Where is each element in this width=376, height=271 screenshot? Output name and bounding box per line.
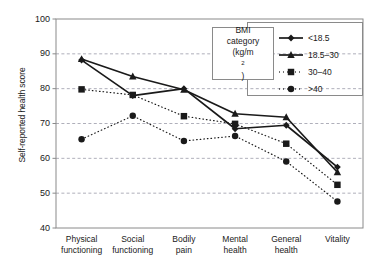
legend-label-0: <18.5 — [308, 33, 330, 43]
legend-label-2: 30–40 — [308, 67, 332, 77]
data-point-2-0 — [78, 86, 84, 92]
legend-label-1: 18.5–30 — [308, 50, 339, 60]
data-point-2-1 — [130, 92, 136, 98]
legend-entry-1[interactable]: 18.5–30 — [278, 49, 339, 61]
legend-label-3: >40 — [308, 84, 322, 94]
data-point-3-1 — [130, 113, 136, 119]
x-tick-label-5: Vitality — [305, 234, 369, 245]
data-point-3-4 — [283, 158, 289, 164]
legend-swatch-diamond-icon — [278, 32, 304, 44]
data-point-2-3 — [232, 121, 238, 127]
legend-swatch-triangle-icon — [278, 49, 304, 61]
data-point-2-2 — [181, 113, 187, 119]
legend-title-box: BMI category (kg/m2) — [212, 27, 274, 80]
legend-swatch-square-icon — [278, 66, 304, 78]
data-point-2-4 — [283, 140, 289, 146]
data-point-3-2 — [181, 138, 187, 144]
legend-title-line-3: (kg/m2) — [232, 47, 253, 83]
data-point-2-5 — [334, 182, 340, 188]
legend-title-line-1: BMI — [235, 25, 250, 36]
y-tick-label-40: 40 — [24, 224, 50, 233]
data-point-1-0 — [78, 55, 85, 62]
chart-figure: Self-reported health score 1009080706050… — [0, 0, 376, 271]
legend-entry-3[interactable]: >40 — [278, 83, 322, 95]
x-tick-line-1: Vitality — [305, 234, 369, 245]
y-tick-label-70: 70 — [24, 119, 50, 128]
legend-swatch-circle-icon — [278, 83, 304, 95]
y-tick-label-100: 100 — [24, 15, 50, 24]
y-tick-label-50: 50 — [24, 189, 50, 198]
legend-title-line-2: category — [227, 36, 260, 47]
legend-entry-2[interactable]: 30–40 — [278, 66, 332, 78]
y-tick-label-90: 90 — [24, 49, 50, 58]
legend-entry-0[interactable]: <18.5 — [278, 32, 330, 44]
x-tick-line-2: health — [254, 245, 318, 256]
data-point-3-5 — [334, 198, 340, 204]
y-tick-label-60: 60 — [24, 154, 50, 163]
data-point-3-0 — [78, 136, 84, 142]
y-tick-label-80: 80 — [24, 84, 50, 93]
data-point-3-3 — [232, 133, 238, 139]
series-line-2 — [82, 89, 338, 184]
